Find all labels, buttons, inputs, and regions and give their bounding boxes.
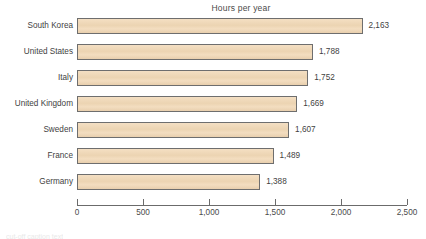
bar	[77, 44, 313, 60]
bar	[77, 174, 260, 190]
bar	[77, 96, 297, 112]
category-label: Italy	[0, 70, 73, 86]
bar-value-label: 2,163	[369, 18, 390, 34]
chart-title: Hours per year	[0, 3, 426, 13]
bar-row: South Korea2,163	[0, 18, 426, 34]
x-axis-tick	[209, 199, 210, 205]
bar-row: United States1,788	[0, 44, 426, 60]
x-axis-tick-label: 1,500	[265, 208, 286, 217]
x-axis-tick	[77, 199, 78, 205]
x-axis-tick	[407, 199, 408, 205]
x-axis-line	[77, 205, 407, 206]
x-axis-tick-label: 1,000	[199, 208, 220, 217]
x-axis-tick	[341, 199, 342, 205]
bar	[77, 122, 289, 138]
x-axis-tick-label: 2,500	[397, 208, 418, 217]
category-label: Germany	[0, 174, 73, 190]
bar-row: France1,489	[0, 148, 426, 164]
bar-value-label: 1,607	[295, 122, 316, 138]
x-axis-tick	[143, 199, 144, 205]
bar-value-label: 1,388	[266, 174, 287, 190]
bar	[77, 148, 274, 164]
bar-chart: Hours per year South Korea2,163United St…	[0, 0, 426, 239]
bar-value-label: 1,489	[280, 148, 301, 164]
chart-title-text: Hours per year	[211, 3, 270, 13]
x-axis-tick	[275, 199, 276, 205]
x-axis-tick-label: 0	[75, 208, 80, 217]
category-label: United States	[0, 44, 73, 60]
cut-off-caption: cut-off caption text	[6, 233, 63, 239]
category-label: Sweden	[0, 122, 73, 138]
bar-row: United Kingdom1,669	[0, 96, 426, 112]
bar-row: Italy1,752	[0, 70, 426, 86]
bar-row: Sweden1,607	[0, 122, 426, 138]
x-axis-tick-label: 2,000	[331, 208, 352, 217]
bar-row: Germany1,388	[0, 174, 426, 190]
category-label: France	[0, 148, 73, 164]
bar-value-label: 1,669	[303, 96, 324, 112]
bar	[77, 18, 363, 34]
category-label: United Kingdom	[0, 96, 73, 112]
bar	[77, 70, 308, 86]
category-label: South Korea	[0, 18, 73, 34]
bar-value-label: 1,752	[314, 70, 335, 86]
plot-area: South Korea2,163United States1,788Italy1…	[0, 16, 426, 206]
x-axis-tick-label: 500	[136, 208, 150, 217]
bar-value-label: 1,788	[319, 44, 340, 60]
